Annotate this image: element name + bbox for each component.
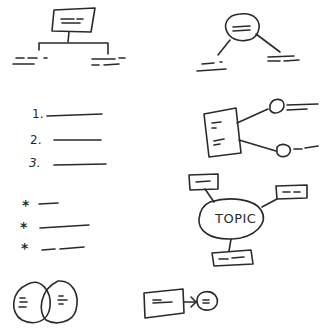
connector-top bbox=[205, 189, 214, 202]
list-number-2: 2. bbox=[30, 133, 41, 147]
branch-box-right bbox=[276, 185, 307, 199]
bullet-3: * bbox=[21, 240, 29, 256]
spoke-lower bbox=[239, 140, 276, 151]
circle-branch-diagram bbox=[197, 14, 299, 71]
numbered-list-diagram: 1. 2. 3. bbox=[29, 107, 106, 170]
flow-diagram bbox=[144, 289, 217, 318]
flow-source-box bbox=[144, 289, 184, 318]
bubble-lower bbox=[277, 145, 290, 157]
right-branch bbox=[256, 34, 280, 52]
topic-label: TOPIC bbox=[214, 211, 256, 226]
flow-target-circle bbox=[197, 292, 217, 310]
branch-connector bbox=[39, 43, 108, 54]
connector-right bbox=[262, 199, 277, 207]
spoke-upper bbox=[237, 109, 268, 123]
document-box bbox=[204, 108, 241, 157]
trunk-connector bbox=[68, 32, 69, 42]
left-branch bbox=[218, 40, 230, 55]
bullet-2: * bbox=[20, 219, 28, 235]
venn-diagram bbox=[14, 281, 77, 323]
bullet-list-diagram: * * * bbox=[20, 197, 89, 256]
root-box bbox=[52, 8, 95, 32]
list-number-1: 1. bbox=[32, 107, 43, 121]
connector-bottom bbox=[229, 239, 231, 251]
list-number-3: 3. bbox=[29, 156, 40, 170]
box-spokes-diagram bbox=[204, 99, 318, 157]
bullet-1: * bbox=[22, 197, 30, 213]
hierarchy-tree-diagram bbox=[13, 8, 125, 65]
venn-circle-left bbox=[14, 282, 51, 322]
bubble-upper bbox=[270, 99, 284, 113]
topic-mindmap-diagram: TOPIC bbox=[189, 174, 307, 266]
